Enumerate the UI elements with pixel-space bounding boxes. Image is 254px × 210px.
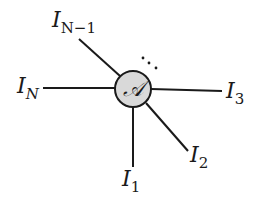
- leg-2-line: [146, 103, 188, 151]
- leg-3-line: [151, 89, 222, 91]
- tensor-diagram: 𝒜 IN−1INI3I2I1: [0, 0, 254, 210]
- leg-2-label: I2: [189, 142, 208, 172]
- leg-n-label: IN: [16, 73, 40, 103]
- leg-n-minus-1-label: IN−1: [51, 7, 96, 37]
- ellipsis-dots: [142, 57, 158, 70]
- leg-3-label: I3: [225, 78, 244, 108]
- leg-n-minus-1-line: [79, 39, 120, 76]
- leg-1-label: I1: [121, 166, 140, 196]
